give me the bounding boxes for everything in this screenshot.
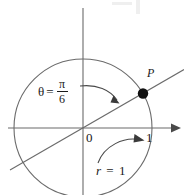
figure-canvas [0, 0, 184, 195]
radius-variable: r [96, 163, 101, 178]
radius-label: r = 1 [96, 164, 125, 177]
point-p-label: P [147, 67, 154, 79]
equals-sign: = [46, 85, 53, 98]
radius-annotation-arrow [98, 139, 141, 163]
radius-value: 1 [119, 163, 126, 178]
theta-symbol: θ [38, 85, 44, 98]
pi-over-six-fraction: π 6 [57, 78, 68, 105]
origin-label: 0 [86, 131, 93, 144]
fraction-denominator: 6 [57, 92, 67, 105]
arrow-right-icon [171, 124, 181, 133]
theta-annotation-arrow [80, 86, 117, 100]
filled-dot-icon [138, 88, 148, 98]
terminal-ray [10, 70, 184, 171]
curved-arrow-icon [134, 134, 145, 143]
polar-coordinate-figure: θ = π 6 P 0 1 r = 1 [0, 0, 184, 195]
equals-sign: = [106, 163, 113, 178]
fraction-numerator: π [57, 78, 67, 91]
x-intercept-label: 1 [146, 131, 153, 144]
theta-angle-label: θ = π 6 [38, 78, 68, 105]
